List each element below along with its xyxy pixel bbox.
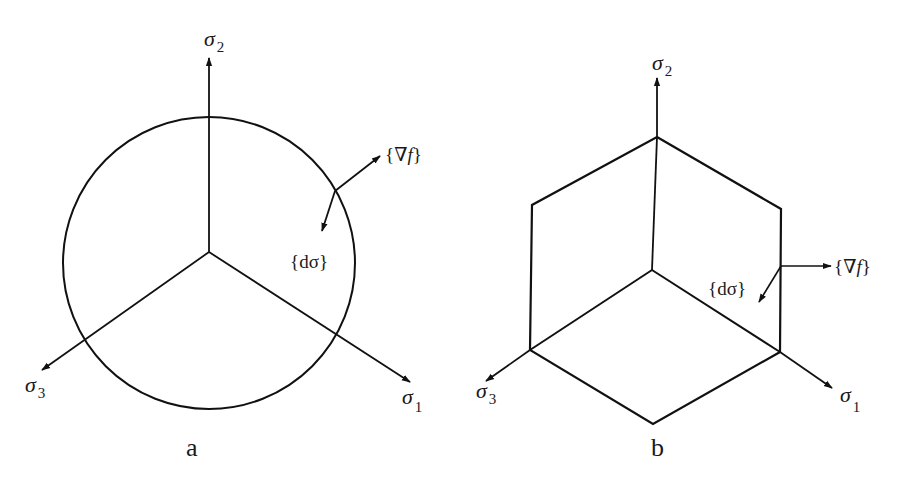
d-sigma-label-b: {dσ}: [708, 278, 746, 299]
sigma3-label-a: σ3: [25, 372, 45, 401]
grad-f-label-a: {∇f}: [385, 144, 422, 165]
hexagon-inner-edge-left: [530, 270, 652, 350]
sigma2-label-a: σ2: [204, 26, 224, 55]
sigma3-label-b: σ3: [476, 378, 496, 407]
panel-b-caption: b: [651, 433, 664, 462]
sigma3-axis-b: [486, 350, 530, 381]
panel-a-caption: a: [186, 433, 198, 462]
yield-surface-figure: σ2 σ3 σ1 {∇f} {dσ} a σ2: [0, 0, 901, 486]
grad-f-label-b: {∇f}: [834, 256, 871, 277]
sigma1-label-b: σ1: [840, 382, 860, 415]
panel-a: σ2 σ3 σ1 {∇f} {dσ} a: [25, 26, 422, 462]
grad-f-arrow-a: [335, 156, 380, 191]
d-sigma-arrow-b: [759, 266, 781, 302]
d-sigma-label-a: {dσ}: [290, 251, 328, 272]
sigma2-label-b: σ2: [652, 50, 672, 79]
sigma2-axis-b: [652, 137, 657, 270]
sigma3-axis-a: [42, 252, 209, 370]
grad-f-arrow-a-reverse: [322, 191, 335, 231]
sigma1-label-a: σ1: [402, 384, 422, 415]
panel-b: σ2 σ3 σ1 {∇f} {dσ} b: [476, 50, 871, 462]
sigma1-axis-b: [780, 352, 832, 388]
